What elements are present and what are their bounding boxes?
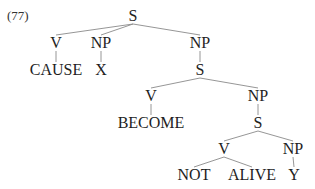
tree-node-np2: NP [190,34,211,51]
tree-node-cause: CAUSE [30,61,82,78]
tree-node-x: X [95,61,107,78]
tree-nodes: SVNPNPCAUSEXSVNPBECOMESVNPNOTALIVEY [30,7,304,183]
tree-node-np1: NP [91,34,112,51]
tree-node-np3: NP [248,87,269,104]
tree-node-v2: V [145,87,157,104]
tree-node-v3: V [218,140,230,157]
tree-node-y: Y [288,166,300,183]
tree-node-become: BECOME [118,114,185,131]
example-number: (77) [7,8,29,23]
tree-node-s2: S [196,61,205,78]
tree-node-np4: NP [283,140,304,157]
tree-node-s3: S [254,114,263,131]
tree-node-alive: ALIVE [228,166,276,183]
tree-node-not: NOT [178,166,211,183]
syntax-tree-diagram: (77) SVNPNPCAUSEXSVNPBECOMESVNPNOTALIVEY [0,0,315,189]
tree-node-s1: S [129,7,138,24]
tree-edge [151,78,200,88]
tree-node-v1: V [50,34,62,51]
